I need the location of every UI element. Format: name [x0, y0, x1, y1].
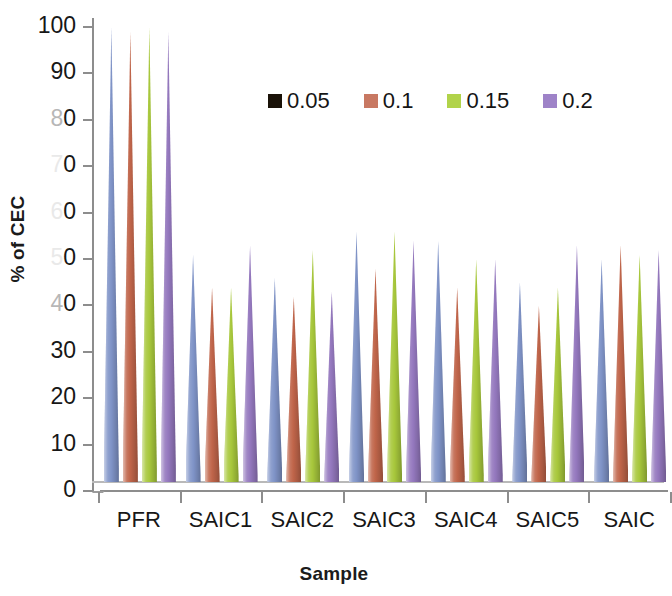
x-axis-tick-mark [507, 492, 509, 503]
bar-cone[interactable] [161, 32, 176, 482]
bar-cone[interactable] [550, 287, 565, 482]
bar-cone-shape [569, 245, 584, 482]
legend-label: 0.15 [466, 90, 509, 112]
bar-cone-shape [387, 231, 402, 482]
bar-cone-shape [450, 287, 465, 482]
y-axis-tick-label: 10 [14, 432, 76, 455]
bar-cone-shading [488, 259, 503, 482]
legend-item[interactable]: 0.2 [543, 90, 593, 112]
bar-cone-shading [632, 255, 647, 482]
bar-cone[interactable] [243, 245, 258, 482]
legend-item[interactable]: 0.05 [268, 90, 330, 112]
bar-cone[interactable] [324, 292, 339, 482]
bar-cone-shading [267, 278, 282, 482]
bar-cone-shading [123, 32, 138, 482]
y-axis-tick-mark [83, 444, 92, 446]
bar-cone-shape [186, 255, 201, 482]
legend-item[interactable]: 0.1 [364, 90, 414, 112]
legend-swatch-icon [447, 94, 461, 108]
bar-cone-shape [123, 32, 138, 482]
chart-legend: 0.050.10.150.2 [268, 86, 593, 116]
bar-cone-shape [613, 245, 628, 482]
y-axis-tick-label: 40 [14, 292, 76, 315]
bar-cone-shading [613, 245, 628, 482]
bar-cone[interactable] [205, 287, 220, 482]
bar-cone-shading [186, 255, 201, 482]
x-axis-tick-mark [180, 492, 182, 503]
bar-cone-shape [205, 287, 220, 482]
bar-cone[interactable] [512, 282, 527, 482]
bar-cone-shape [594, 259, 609, 482]
y-axis-tick-label: 90 [14, 60, 76, 83]
bar-cone-shape [368, 269, 383, 482]
bar-cone[interactable] [305, 250, 320, 482]
bar-cone[interactable] [224, 287, 239, 482]
x-axis-tick-label: SAIC [588, 507, 670, 533]
x-axis-tick-label: SAIC2 [261, 507, 343, 533]
bar-cone-shading [512, 282, 527, 482]
bar-cone-shape [104, 27, 119, 482]
bar-cone[interactable] [450, 287, 465, 482]
bar-cone[interactable] [349, 231, 364, 482]
bar-cone[interactable] [469, 259, 484, 482]
x-axis-tick-label: PFR [98, 507, 180, 533]
bar-cone-shading [406, 241, 421, 482]
bar-cone[interactable] [531, 306, 546, 482]
bar-cone-shape [488, 259, 503, 482]
bar-cone-shading [651, 250, 666, 482]
legend-item[interactable]: 0.15 [447, 90, 509, 112]
bar-cone-shading [594, 259, 609, 482]
bar-cone[interactable] [286, 296, 301, 482]
x-axis-tick-label: SAIC3 [343, 507, 425, 533]
y-axis-tick-mark [83, 304, 92, 306]
bar-cone-shape [632, 255, 647, 482]
bar-cone-shape [512, 282, 527, 482]
bar-cone[interactable] [186, 255, 201, 482]
y-axis-line [92, 18, 94, 492]
x-axis-tick-label: SAIC5 [507, 507, 589, 533]
bar-group [594, 18, 666, 482]
y-axis-tick-label: 80 [14, 107, 76, 130]
bar-cone[interactable] [613, 245, 628, 482]
bar-cone[interactable] [488, 259, 503, 482]
bar-cone-shading [368, 269, 383, 482]
bar-cone[interactable] [651, 250, 666, 482]
bar-group [186, 18, 258, 482]
bar-cone-shading [349, 231, 364, 482]
bar-group [104, 18, 176, 482]
bar-cone-shading [431, 241, 446, 482]
bar-cone[interactable] [368, 269, 383, 482]
x-axis-tick-mark [343, 492, 345, 503]
bar-cone-shape [142, 27, 157, 482]
bar-cone-shape [243, 245, 258, 482]
bar-cone-shading [531, 306, 546, 482]
y-axis-tick-mark [83, 119, 92, 121]
bar-cone[interactable] [594, 259, 609, 482]
bar-cone[interactable] [123, 32, 138, 482]
bar-cone[interactable] [431, 241, 446, 482]
bar-cone-shape [224, 287, 239, 482]
bar-cone[interactable] [142, 27, 157, 482]
bar-cone-shape [431, 241, 446, 482]
bar-cone-shading [142, 27, 157, 482]
x-axis-tick-mark [261, 492, 263, 503]
bar-cone-shape [286, 296, 301, 482]
bar-cone-shading [205, 287, 220, 482]
x-axis-line [100, 490, 668, 492]
bar-cone-shading [305, 250, 320, 482]
bar-cone[interactable] [267, 278, 282, 482]
y-axis-tick-mark [83, 490, 92, 492]
bar-cone[interactable] [387, 231, 402, 482]
bar-cone-shape [406, 241, 421, 482]
x-axis-tick-mark [425, 492, 427, 503]
bar-cone-shading [161, 32, 176, 482]
bar-cone[interactable] [104, 27, 119, 482]
bar-cone-shading [550, 287, 565, 482]
legend-swatch-icon [364, 94, 378, 108]
bar-cone[interactable] [406, 241, 421, 482]
bar-cone[interactable] [632, 255, 647, 482]
bar-cone[interactable] [569, 245, 584, 482]
y-axis-tick-label: 20 [14, 385, 76, 408]
x-axis-tick-label: SAIC1 [180, 507, 262, 533]
y-axis-tick-mark [83, 72, 92, 74]
